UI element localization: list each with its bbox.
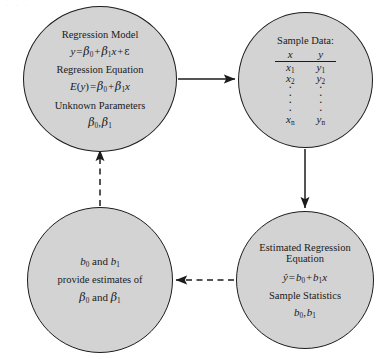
table-header-row: x y — [275, 49, 336, 61]
model-eq2-plus: + — [108, 80, 114, 92]
model-eq1-y: y — [70, 45, 75, 57]
model-eq1-beta0-sub: 0 — [90, 51, 94, 59]
model-heading-3: Unknown Parameters — [55, 100, 146, 112]
inference-b0-sub: 0 — [86, 261, 90, 269]
inference-line-1: b0 and b1 — [80, 255, 120, 268]
estimated-sample-statistics: b0, b1 — [294, 306, 316, 319]
estimated-equation: ŷ = b0 + b1x — [283, 271, 327, 284]
cell-xn: xn — [275, 114, 306, 125]
model-eq2-x: x — [125, 80, 130, 92]
sample-data-table: x y x1 y1 x2 y2 ···· ···· — [275, 49, 336, 126]
estimated-heading-line-2: Equation — [286, 253, 324, 265]
stats-comma: , — [303, 306, 306, 318]
model-eq1-x: x — [111, 45, 116, 57]
table-row: xn yn — [275, 114, 336, 125]
column-header-x: x — [275, 49, 306, 61]
stats-b1-sub: 1 — [312, 312, 316, 320]
inference-beta0-sub: 0 — [86, 298, 90, 306]
inference-b1-sub: 1 — [116, 261, 120, 269]
model-eq1-equals: = — [76, 45, 82, 57]
diagram-canvas: · · · Regression Model — [0, 0, 392, 359]
node-estimated-regression-equation: Estimated Regression Equation ŷ = b0 + b… — [236, 211, 374, 349]
node-estimates-inference: b0 and b1 provide estimates of β0 and β1 — [27, 207, 173, 353]
estimated-yhat: ŷ — [283, 271, 288, 283]
model-eq2-beta0-sub: 0 — [103, 86, 107, 94]
inference-beta1-sub: 1 — [117, 298, 121, 306]
model-heading-2: Regression Equation — [56, 64, 143, 76]
ellipsis-y: ···· — [306, 84, 337, 114]
model-eq2-equals: = — [90, 80, 96, 92]
table-ellipsis-row: ···· ···· — [275, 84, 336, 114]
model-unknown-parameters: β0, β1 — [88, 116, 112, 130]
inference-and-2: and — [92, 291, 108, 303]
cell-yn: yn — [306, 114, 337, 125]
model-equation-2: E(y) = β0 + β1x — [70, 80, 130, 94]
table-row: x2 y2 — [275, 73, 336, 84]
estimated-heading-line-1: Estimated Regression — [259, 242, 350, 254]
ellipsis-x: ···· — [275, 84, 306, 114]
model-eq1-epsilon: ε — [124, 46, 129, 57]
inference-and-1: and — [92, 255, 108, 267]
column-header-y: y — [306, 49, 337, 61]
sample-data-heading: Sample Data: — [277, 35, 334, 47]
inference-line-3: β0 and β1 — [79, 291, 120, 305]
inference-line-2: provide estimates of — [57, 274, 142, 286]
model-param-beta1-sub: 1 — [108, 122, 112, 130]
table-row: x1 y1 — [275, 62, 336, 73]
model-equation-1: y = β0 + β1x + ε — [70, 45, 129, 59]
estimated-equals: = — [289, 271, 295, 283]
model-eq1-plus-2: + — [117, 45, 123, 57]
model-param-comma: , — [98, 116, 101, 128]
estimated-heading-sample-statistics: Sample Statistics — [269, 290, 341, 302]
node-regression-model: Regression Model y = β0 + β1x + ε Regres… — [23, 6, 177, 152]
model-heading-1: Regression Model — [62, 29, 139, 41]
estimated-plus: + — [306, 271, 312, 283]
model-eq2-paren-close: ) — [85, 80, 89, 92]
node-sample-data: Sample Data: x y x1 y1 x2 y2 ···· — [238, 12, 373, 148]
model-eq1-plus-1: + — [94, 45, 100, 57]
estimated-b0-sub: 0 — [301, 277, 305, 285]
model-eq2-E: E — [70, 80, 77, 92]
estimated-x: x — [322, 271, 327, 283]
